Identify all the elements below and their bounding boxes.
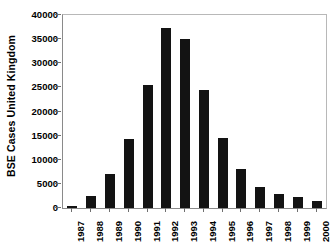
y-axis-tick-mark [55,111,61,112]
x-axis-tick-mark [278,208,279,212]
bar-1991[interactable] [143,85,153,208]
x-axis-tick-label-group: 1987198819891990199119921993199419951996… [62,208,325,251]
y-axis-tick-label-group: 0500010000150002000025000300003500040000 [18,8,58,207]
x-axis-tick-mark [109,208,110,212]
bar-slot [213,15,232,208]
x-axis-tick-mark [90,208,91,212]
bar-1994[interactable] [199,90,209,208]
x-axis-tick-mark [222,208,223,212]
x-axis-tick-mark [147,208,148,212]
y-axis-tick-mark [55,159,61,160]
bar-slot [176,15,195,208]
y-axis-tick-label: 30000 [18,57,58,68]
x-axis-tick-label: 1991 [138,208,156,251]
bar-slot [138,15,157,208]
bar-slot [63,15,82,208]
bars-layer [63,15,326,208]
y-axis-tick-mark [55,62,61,63]
x-axis-tick-mark [184,208,185,212]
y-axis-title-label: BSE Cases United Kingdom [5,35,17,177]
x-axis-tick-mark [240,208,241,212]
bar-1990[interactable] [124,139,134,208]
x-axis-tick-label: 1992 [156,208,174,251]
y-axis-tick-label: 0 [18,202,58,213]
bar-slot [270,15,289,208]
bar-1993[interactable] [180,39,190,208]
bar-slot [101,15,120,208]
y-axis-tick-label: 5000 [18,177,58,188]
bar-1999[interactable] [293,197,303,208]
x-axis-tick-label: 1996 [231,208,249,251]
y-axis-tick-mark [55,14,61,15]
y-axis-tick-mark [55,38,61,39]
x-axis-tick-label: 1989 [100,208,118,251]
y-axis-tick-label: 10000 [18,153,58,164]
bar-1998[interactable] [274,194,284,208]
bse-cases-bar-chart: BSE Cases United Kingdom 050001000015000… [0,0,335,251]
x-axis-tick-mark [203,208,204,212]
x-axis-tick-label: 1998 [269,208,287,251]
x-axis-tick-label: 1997 [250,208,268,251]
y-axis-tick-label: 15000 [18,129,58,140]
x-axis-tick-label: 1990 [119,208,137,251]
x-axis-tick-label: 1987 [62,208,80,251]
x-axis-tick-mark [71,208,72,212]
bar-slot [251,15,270,208]
y-axis-tick-label: 20000 [18,105,58,116]
y-axis-tick-mark [55,86,61,87]
x-axis-tick-label: 1994 [194,208,212,251]
x-axis-tick-label: 1999 [288,208,306,251]
bar-1989[interactable] [105,174,115,208]
bar-slot [194,15,213,208]
x-axis-tick-mark [259,208,260,212]
x-axis-tick-mark [316,208,317,212]
y-axis-tick-label: 40000 [18,9,58,20]
bar-1997[interactable] [255,187,265,208]
y-axis-tick-mark [55,207,61,208]
bar-slot [232,15,251,208]
x-axis-tick-label: 1993 [175,208,193,251]
y-axis-tick-label: 25000 [18,81,58,92]
bar-slot [82,15,101,208]
bar-1995[interactable] [218,138,228,208]
bar-1988[interactable] [86,196,96,208]
y-axis-tick-label: 35000 [18,33,58,44]
x-axis-tick-mark [128,208,129,212]
y-axis-tick-mark [55,135,61,136]
bar-slot [157,15,176,208]
x-axis-tick-mark [165,208,166,212]
bar-1996[interactable] [236,169,246,208]
bar-1992[interactable] [161,28,171,208]
bar-slot [288,15,307,208]
x-axis-tick-mark [297,208,298,212]
bar-2000[interactable] [312,201,322,208]
y-axis-tick-mark [55,183,61,184]
x-axis-tick-label: 2000 [307,208,325,251]
x-axis-tick-label: 1995 [213,208,231,251]
x-axis-tick-label: 1988 [81,208,99,251]
bar-slot [119,15,138,208]
bar-slot [307,15,326,208]
x-axis-tick-label-text: 2000 [320,221,331,242]
plot-area [62,14,327,209]
